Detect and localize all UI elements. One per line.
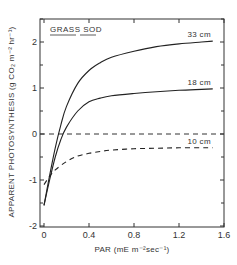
- x-tick-label: 1.6: [218, 230, 231, 240]
- axes: [40, 19, 224, 227]
- y-axis-label: APPARENT PHOTOSYNTHESIS (g CO₂ m⁻² hr⁻¹): [7, 26, 16, 217]
- annotations: 33 cm18 cm10 cm: [188, 30, 211, 146]
- x-tick-label: 0.8: [128, 230, 141, 240]
- annotation-33cm: 33 cm: [188, 30, 211, 39]
- y-tick-label: -2: [29, 221, 37, 231]
- y-tick-label: 1: [32, 83, 37, 93]
- inset-label: GRASS SOD: [50, 25, 102, 34]
- series-line-18cm: [44, 89, 213, 205]
- photosynthesis-chart: -2-101200.40.81.21.6 GRASS SOD PAR (mE m…: [0, 0, 237, 265]
- series-line-10cm: [44, 148, 213, 185]
- y-tick-label: 0: [32, 129, 37, 139]
- x-axis-label: PAR (mE m⁻²sec⁻¹): [94, 245, 169, 254]
- series-group: [40, 41, 224, 205]
- annotation-18cm: 18 cm: [188, 78, 211, 87]
- x-tick-label: 1.2: [173, 230, 186, 240]
- y-tick-label: 2: [32, 37, 37, 47]
- plot-frame: [40, 19, 224, 227]
- y-tick-label: -1: [29, 175, 37, 185]
- x-tick-label: 0: [41, 230, 46, 240]
- x-tick-label: 0.4: [83, 230, 96, 240]
- annotation-10cm: 10 cm: [188, 137, 211, 146]
